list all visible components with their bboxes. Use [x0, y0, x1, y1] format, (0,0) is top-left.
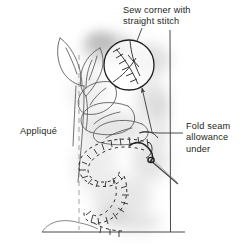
detail-circle [104, 40, 154, 90]
label-applique: Appliqué [20, 126, 57, 137]
leader-line-sew-corner [137, 28, 142, 41]
fabric-corner-turn [42, 221, 80, 232]
fabric-edge-vertical [170, 30, 171, 232]
label-sew-corner: Sew corner with straight stitch [123, 5, 191, 28]
label-fold-seam: Fold seam allowance under [186, 121, 230, 155]
